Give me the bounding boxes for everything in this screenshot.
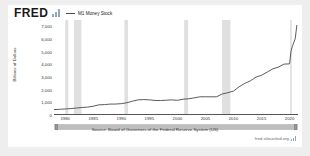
y-axis-title: Billions of Dollars [12,40,17,90]
y-axis-tick-label: 0 [50,113,52,118]
bar-chart-icon [52,9,61,17]
y-axis-tick-label: 7,000 [41,24,52,29]
chart-legend[interactable]: M1 Money Stock [66,9,112,18]
x-axis-tick-label: 1995 [145,116,155,121]
watermark-label: fred.stlouisfed.org [255,136,289,141]
y-axis-tick-label: 6,000 [41,37,52,42]
chart-footer: Source: Board of Governors of the Federa… [8,127,302,147]
x-axis-tick-label: 2010 [229,116,239,121]
y-axis-tick-label: 1,000 [41,100,52,105]
legend-line-swatch [66,13,75,14]
chart-svg [54,20,298,114]
recession-band [290,20,292,114]
x-axis-tick-label: 1985 [88,116,98,121]
plot-area-wrapper: Billions of Dollars 7,0006,0005,0004,000… [8,20,302,123]
y-axis-tick-label: 4,000 [41,62,52,67]
y-axis-tick-label: 5,000 [41,49,52,54]
recession-band [124,20,128,114]
recession-band [74,20,82,114]
data-series-paths [54,25,297,110]
source-attribution: Source: Board of Governors of the Federa… [8,127,302,132]
site-watermark: fred.stlouisfed.org [255,136,296,141]
series-line [54,25,297,110]
recession-band [184,20,188,114]
screenshot-frame: FRED M1 Money Stock Billions of Dollars … [0,0,310,156]
x-axis-tick-label: 1980 [60,116,70,121]
x-axis-tick-label: 2020 [285,116,295,121]
fred-logo[interactable]: FRED [14,7,48,19]
fred-mark-icon [291,136,296,141]
recession-band [65,20,68,114]
recession-band [222,20,230,114]
y-axis-tick-label: 3,000 [41,75,52,80]
fred-chart-card: FRED M1 Money Stock Billions of Dollars … [8,5,302,147]
plot-canvas[interactable] [54,20,298,115]
x-axis-tick-label: 2000 [173,116,183,121]
x-axis-tick-label: 1990 [117,116,127,121]
legend-item-label: M1 Money Stock [78,11,112,17]
x-axis-tick-label: 2005 [201,116,211,121]
x-axis-tick-label: 2015 [257,116,267,121]
y-axis-ticks: 7,0006,0005,0004,0003,0002,0001,0000 [26,20,52,115]
y-axis-tick-label: 2,000 [41,87,52,92]
